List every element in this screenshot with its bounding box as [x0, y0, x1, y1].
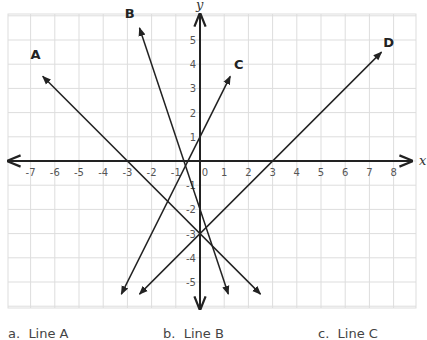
y-tick-label: 1	[190, 132, 196, 143]
choice-a[interactable]: a. Line A	[8, 326, 69, 340]
x-axis-label: x	[419, 153, 427, 168]
x-tick-label: 7	[366, 167, 372, 178]
choice-label: Line A	[28, 326, 68, 340]
x-tick-label: 8	[390, 167, 396, 178]
x-tick-label: 5	[318, 167, 324, 178]
choice-b[interactable]: b. Line B	[163, 326, 224, 340]
x-tick-label: 0	[202, 167, 208, 178]
choice-label: Line C	[338, 326, 378, 340]
choice-label: Line B	[184, 326, 224, 340]
x-tick-label: -6	[50, 167, 60, 178]
x-tick-label: 4	[294, 167, 300, 178]
answer-choices: a. Line A b. Line B c. Line C	[0, 326, 427, 340]
y-tick-label: -2	[186, 204, 196, 215]
x-tick-label: -4	[98, 167, 108, 178]
y-tick-label: 4	[190, 59, 196, 70]
x-tick-label: 3	[269, 167, 275, 178]
line-label-c: C	[234, 57, 244, 72]
y-tick-label: -4	[186, 253, 196, 264]
choice-letter: a.	[8, 326, 20, 340]
choice-c[interactable]: c. Line C	[318, 326, 378, 340]
x-tick-label: 2	[245, 167, 251, 178]
choice-letter: c.	[318, 326, 329, 340]
x-tick-label: -3	[122, 167, 132, 178]
x-tick-label: -2	[147, 167, 157, 178]
x-tick-label: -5	[74, 167, 84, 178]
line-label-a: A	[30, 47, 40, 62]
x-tick-label: -7	[26, 167, 36, 178]
y-tick-label: -3	[186, 229, 196, 240]
y-tick-label: 3	[190, 83, 196, 94]
y-tick-label: 2	[190, 108, 196, 119]
choice-letter: b.	[163, 326, 175, 340]
y-axis-label: y	[195, 0, 204, 12]
y-tick-label: -5	[186, 277, 196, 288]
coordinate-plane: xy -7-6-5-4-3-2-1012345678-5-4-3-2-11234…	[0, 0, 427, 320]
x-tick-label: 6	[342, 167, 348, 178]
y-tick-label: 5	[190, 35, 196, 46]
x-tick-label: -1	[171, 167, 181, 178]
x-tick-label: 1	[221, 167, 227, 178]
line-label-b: B	[125, 6, 135, 21]
line-label-d: D	[383, 35, 394, 50]
